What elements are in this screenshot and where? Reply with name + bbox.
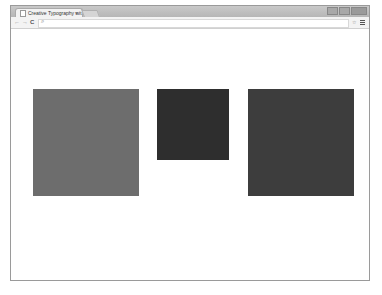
maximize-button[interactable] bbox=[339, 7, 350, 15]
reload-icon[interactable]: C bbox=[30, 17, 34, 28]
tab-title: Creative Typography wit bbox=[28, 10, 82, 16]
back-arrow-icon[interactable]: ← bbox=[14, 17, 20, 28]
title-bar: Creative Typography wit × bbox=[11, 6, 369, 17]
square-small-dark bbox=[157, 89, 229, 160]
page-viewport bbox=[11, 29, 369, 280]
address-bar[interactable]: ⌕ bbox=[38, 19, 349, 28]
square-medium-gray bbox=[33, 89, 139, 196]
search-icon: ⌕ bbox=[41, 18, 44, 25]
menu-hamburger-icon[interactable] bbox=[360, 20, 365, 25]
window-close-button[interactable] bbox=[351, 7, 367, 15]
minimize-button[interactable] bbox=[327, 7, 338, 15]
bookmark-star-icon[interactable]: ☆ bbox=[352, 17, 356, 28]
window-controls bbox=[327, 7, 367, 14]
forward-arrow-icon[interactable]: → bbox=[22, 17, 28, 28]
browser-toolbar: ← → C ⌕ ☆ bbox=[11, 17, 369, 29]
square-large-dark bbox=[248, 89, 354, 196]
browser-window: Creative Typography wit × ← → C ⌕ ☆ bbox=[10, 5, 370, 281]
